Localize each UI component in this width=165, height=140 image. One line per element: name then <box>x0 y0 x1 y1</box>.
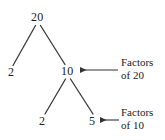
node-label-left-2: 2 <box>8 66 14 78</box>
edge-10-to-5 <box>71 79 94 114</box>
callout-factors-of-20-line2: of 20 <box>121 69 153 82</box>
node-label-10: 10 <box>61 65 73 77</box>
edge-20-to-2 <box>13 26 36 66</box>
node-label-bottom-2: 2 <box>39 115 45 127</box>
edge-20-to-10 <box>41 26 66 65</box>
factor-tree-diagram: 20 2 10 2 5 Factors of 20 Factors of 10 <box>0 0 165 140</box>
callout-factors-of-10-line2: of 10 <box>121 119 153 132</box>
callout-factors-of-10: Factors of 10 <box>121 106 153 131</box>
node-label-5: 5 <box>89 115 95 127</box>
callout-factors-of-20: Factors of 20 <box>121 56 153 81</box>
node-label-20: 20 <box>31 11 43 23</box>
callout-factors-of-20-line1: Factors <box>121 56 153 69</box>
edge-10-to-2 <box>45 79 66 114</box>
callout-factors-of-10-line1: Factors <box>121 106 153 119</box>
